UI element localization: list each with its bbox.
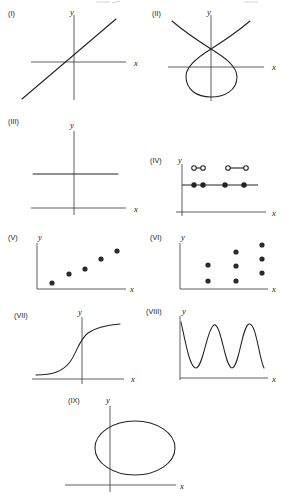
- panel-9-x-label: x: [179, 481, 184, 491]
- panel-2-left-branch: [172, 21, 211, 49]
- panel-5-scatter-point: [114, 248, 119, 253]
- panel-4: (IV) y x: [150, 155, 276, 218]
- panel-2-tag: (II): [152, 9, 161, 18]
- panel-4-open-endpoint: [201, 166, 206, 171]
- panel-5-scatter-point: [49, 280, 54, 285]
- panel-2-right-branch: [211, 21, 250, 49]
- panel-1-y-label: y: [69, 7, 74, 17]
- panel-8-y-label: y: [181, 306, 186, 316]
- panel-6-scatter-point: [259, 242, 264, 247]
- panel-4-open-endpoint: [244, 166, 249, 171]
- panel-6: (VI) y x: [150, 232, 276, 294]
- panel-3-y-label: y: [69, 120, 74, 130]
- panel-1-tag: (I): [8, 9, 15, 18]
- scan-artifact: [96, 1, 120, 3]
- panel-8-tag: (VIII): [146, 307, 162, 316]
- panel-3-x-label: x: [133, 204, 138, 214]
- panel-5-scatter-point: [98, 256, 103, 261]
- panel-4-tag: (IV): [150, 156, 162, 165]
- panel-6-scatter-point: [233, 278, 238, 283]
- panel-2: (II) y x: [152, 7, 276, 101]
- panel-6-x-label: x: [271, 284, 276, 294]
- panel-6-scatter-point: [205, 278, 210, 283]
- panel-7-x-label: x: [130, 374, 135, 384]
- panel-9-tag: (IX): [68, 396, 80, 405]
- panel-4-closed-endpoint: [222, 182, 227, 187]
- panel-6-scatter-point: [259, 256, 264, 261]
- panel-5: (V) y x: [8, 232, 134, 294]
- panel-6-scatter-point: [259, 270, 264, 275]
- panel-5-scatter-point: [66, 271, 71, 276]
- panel-1-x-label: x: [133, 58, 138, 68]
- figure-container: (I) y x (II) y x (III) y x: [0, 0, 287, 500]
- panel-2-y-label: y: [206, 7, 211, 17]
- panel-5-tag: (V): [8, 233, 18, 242]
- panel-6-scatter-point: [233, 263, 238, 268]
- panel-9-ellipse-graph: [95, 421, 175, 475]
- panel-1-line-graph: [22, 19, 116, 99]
- panel-6-tag: (VI): [150, 233, 162, 242]
- panel-3: (III) y x: [8, 117, 138, 215]
- panel-8-sinusoid-curve: [181, 322, 264, 368]
- panel-2-x-label: x: [271, 62, 276, 72]
- panel-4-y-label: y: [177, 155, 182, 165]
- panel-1: (I) y x: [8, 7, 138, 100]
- panel-4-closed-endpoint: [241, 182, 246, 187]
- panel-5-x-label: x: [129, 284, 134, 294]
- panel-7-sigmoid-curve: [36, 324, 120, 375]
- panel-8-x-label: x: [271, 374, 276, 384]
- panel-9-y-label: y: [105, 395, 110, 405]
- panel-7-tag: (VII): [14, 311, 28, 320]
- panel-5-y-label: y: [37, 232, 42, 242]
- panel-6-scatter-point: [233, 249, 238, 254]
- panel-4-closed-endpoint: [200, 182, 205, 187]
- panel-7: (VII) y x: [14, 307, 135, 384]
- panel-3-tag: (III): [8, 117, 19, 126]
- panel-4-closed-endpoint: [191, 182, 196, 187]
- panel-4-x-label: x: [271, 208, 276, 218]
- panel-4-open-endpoint: [192, 166, 197, 171]
- panel-8: (VIII) y x: [146, 306, 276, 384]
- panel-6-scatter-point: [205, 262, 210, 267]
- panel-9: (IX) y x: [65, 395, 184, 492]
- panel-5-scatter-point: [82, 266, 87, 271]
- panel-2-loop: [186, 49, 237, 97]
- panel-4-open-endpoint: [226, 166, 231, 171]
- panel-6-y-label: y: [180, 232, 185, 242]
- panel-7-y-label: y: [77, 307, 82, 317]
- nine-panel-graph-figure: (I) y x (II) y x (III) y x: [0, 0, 287, 500]
